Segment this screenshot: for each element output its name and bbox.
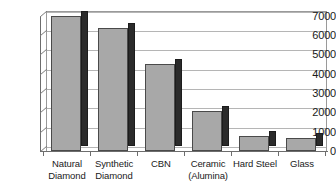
y-axis-depth-edge [40,11,47,152]
x-axis-label-synthetic-diamond: Synthetic Diamond [86,158,142,181]
x-axis-label-line: (Alumina) [180,170,236,182]
bar-front-face [286,138,316,151]
x-axis-label-glass: Glass [278,158,326,170]
bar-front-face [145,64,175,151]
bar-side-face [269,131,276,146]
y-tick-label: 3000 [300,88,336,99]
gridline [47,12,326,13]
gridline [47,31,326,32]
y-tick-label: 6000 [300,30,336,41]
bar-side-face [81,11,88,146]
gridline [47,50,326,51]
bar-side-face [128,23,135,146]
plot-area [46,11,327,152]
bar-side-face [222,106,229,146]
x-tick-mark [43,152,44,156]
x-tick-mark [90,152,91,156]
bar-synthetic-diamond [98,23,128,151]
bar-side-face [316,133,323,146]
bar-cbn [145,59,175,151]
x-tick-mark [184,152,185,156]
x-tick-mark [231,152,232,156]
gridline [47,128,326,129]
bar-chart: 7000 6000 5000 4000 3000 2000 1000 0 [0,0,336,190]
x-tick-mark [278,152,279,156]
gridline [47,108,326,109]
bar-front-face [98,28,128,151]
y-tick-label: 5000 [300,49,336,60]
bar-front-face [192,111,222,151]
x-axis-label-line: Hard Steel [228,158,282,170]
bar-front-face [239,136,269,151]
x-tick-mark [325,152,326,156]
bar-glass [286,133,316,151]
gridline [47,70,326,71]
bar-front-face [51,16,81,151]
x-axis-label-line: Synthetic [86,158,142,170]
x-axis-label-line: Glass [278,158,326,170]
bar-side-face [175,59,182,146]
y-tick-label: 4000 [300,69,336,80]
y-tick-label: 2000 [300,107,336,118]
x-axis-label-line: Diamond [86,170,142,182]
x-tick-mark [137,152,138,156]
x-axis-label-line: CBN [136,158,186,170]
gridline [47,147,326,148]
x-axis-label-hard-steel: Hard Steel [228,158,282,170]
x-axis-label-cbn: CBN [136,158,186,170]
bar-hard-steel [239,131,269,151]
gridline [47,89,326,90]
bar-natural-diamond [51,11,81,151]
y-tick-label: 7000 [300,11,336,22]
bar-ceramic-alumina [192,106,222,151]
